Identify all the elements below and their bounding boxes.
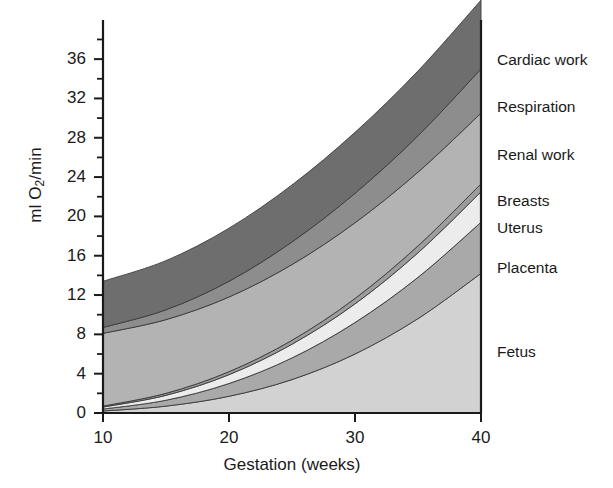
- x-tick-label: 10: [78, 429, 128, 446]
- y-tick-label: 28: [46, 129, 86, 146]
- area-bands-group: [103, 0, 481, 413]
- y-tick-label: 32: [46, 89, 86, 106]
- y-axis-title: ml O2/min: [26, 115, 46, 255]
- legend-label-respiration: Respiration: [497, 99, 575, 115]
- stacked-area-plot: [0, 0, 613, 488]
- y-axis-title-post: /min: [26, 147, 45, 180]
- y-tick-label: 12: [46, 286, 86, 303]
- legend-label-fetus: Fetus: [497, 344, 536, 360]
- y-tick-label: 4: [46, 365, 86, 382]
- x-tick-label: 30: [330, 429, 380, 446]
- x-tick-label: 40: [456, 429, 506, 446]
- x-tick-label: 20: [204, 429, 254, 446]
- legend-label-cardiac-work: Cardiac work: [497, 52, 587, 68]
- y-tick-label: 36: [46, 50, 86, 67]
- y-tick-label: 16: [46, 247, 86, 264]
- legend-label-breasts: Breasts: [497, 193, 550, 209]
- y-axis-title-sub: 2: [33, 180, 47, 187]
- y-tick-label: 8: [46, 325, 86, 342]
- chart-figure: ml O2/min Gestation (weeks) 048121620242…: [0, 0, 613, 488]
- y-tick-label: 0: [46, 404, 86, 421]
- x-axis-title: Gestation (weeks): [103, 455, 481, 475]
- y-axis-title-pre: ml O: [26, 187, 45, 223]
- y-tick-label: 20: [46, 207, 86, 224]
- legend-label-placenta: Placenta: [497, 260, 557, 276]
- legend-label-renal-work: Renal work: [497, 147, 575, 163]
- y-tick-label: 24: [46, 168, 86, 185]
- legend-label-uterus: Uterus: [497, 220, 543, 236]
